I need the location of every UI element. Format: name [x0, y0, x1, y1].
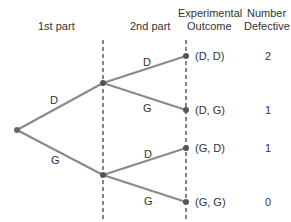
header-second-part: 2nd part — [130, 20, 170, 33]
outcome-dg: (D, G) — [195, 104, 225, 117]
branch-label-g1: G — [51, 154, 60, 167]
node-g — [100, 172, 106, 178]
leaf-dd — [183, 53, 189, 59]
header-first-part: 1st part — [38, 20, 75, 33]
header-number: Number — [247, 7, 286, 20]
root-node — [14, 127, 20, 133]
defective-dg: 1 — [258, 104, 278, 117]
branch-label-d1: D — [50, 94, 58, 107]
node-d — [100, 80, 106, 86]
branch-label-g2-upper: G — [143, 102, 152, 115]
leaf-gg — [183, 199, 189, 205]
branch-label-d2-lower: D — [144, 148, 152, 161]
branch-label-g2-lower: G — [144, 195, 153, 208]
branch-label-d2-upper: D — [143, 56, 151, 69]
defective-dd: 2 — [258, 50, 278, 63]
leaf-dg — [183, 107, 189, 113]
leaf-gd — [183, 145, 189, 151]
outcome-gg: (G, G) — [195, 196, 226, 209]
branch-root-to-g — [17, 130, 103, 175]
defective-gd: 1 — [258, 142, 278, 155]
header-defective: Defective — [244, 20, 290, 33]
outcome-dd: (D, D) — [195, 50, 224, 63]
header-experimental: Experimental — [178, 7, 242, 20]
branch-root-to-d — [17, 83, 103, 130]
header-outcome: Outcome — [187, 20, 232, 33]
defective-gg: 0 — [258, 196, 278, 209]
outcome-gd: (G, D) — [195, 142, 225, 155]
